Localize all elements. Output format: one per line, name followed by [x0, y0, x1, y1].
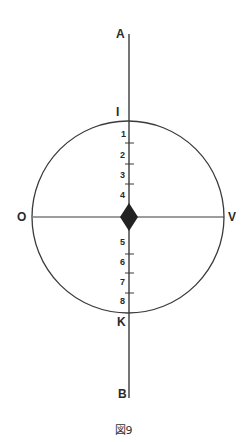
scale-8: 8	[120, 297, 125, 306]
label-k: K	[117, 316, 126, 328]
center-diamond-marker	[120, 203, 138, 231]
label-v: V	[228, 211, 236, 223]
scale-4: 4	[120, 191, 125, 200]
scale-1: 1	[121, 130, 126, 139]
figure-caption: 図9	[0, 421, 247, 437]
scale-2: 2	[120, 151, 125, 160]
label-b: B	[118, 388, 127, 400]
scale-6: 6	[120, 258, 125, 267]
label-o: O	[17, 211, 26, 223]
compass-diagram	[0, 0, 247, 442]
label-i: I	[116, 106, 119, 118]
scale-3: 3	[120, 171, 125, 180]
label-a: A	[116, 28, 125, 40]
scale-5: 5	[120, 238, 125, 247]
scale-7: 7	[120, 278, 125, 287]
